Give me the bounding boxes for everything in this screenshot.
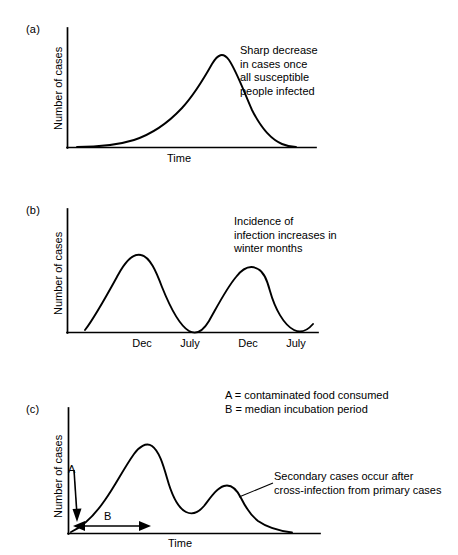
x-tick-label-july-2: July — [276, 337, 316, 349]
panel-label-b: (b) — [26, 204, 40, 216]
x-tick-label-dec-1: Dec — [122, 337, 162, 349]
legend-line-b: B = median incubation period — [225, 403, 368, 417]
y-axis-title-b: Number of cases — [52, 232, 64, 315]
panel-a: (a) Number of cases Time Sharp decrease … — [0, 0, 458, 185]
panel-a-plot — [0, 0, 458, 185]
panel-label-c: (c) — [26, 403, 39, 415]
panel-b: (b) Number of cases Dec July Dec July In… — [0, 185, 458, 370]
epidemic-curve-b — [85, 255, 313, 333]
x-axis-title-c: Time — [168, 537, 192, 549]
x-tick-label-july-1: July — [170, 337, 210, 349]
legend-line-a: A = contaminated food consumed — [225, 389, 389, 403]
annotation-b: Incidence of infection increases in wint… — [234, 215, 337, 256]
marker-a-arrow-shaft — [74, 470, 77, 515]
x-tick-label-dec-2: Dec — [228, 337, 268, 349]
panel-c: (c) Number of cases Time A B A = contami… — [0, 370, 458, 555]
marker-label-b: B — [104, 510, 111, 522]
y-axis-title-c: Number of cases — [52, 435, 64, 518]
annotation-c: Secondary cases occur after cross-infect… — [274, 470, 442, 497]
annotation-a: Sharp decrease in cases once all suscept… — [240, 44, 318, 98]
marker-b-arrow-head-right — [139, 521, 151, 531]
x-axis-title-a: Time — [167, 152, 191, 164]
marker-a-arrow-head — [73, 509, 82, 523]
annotation-c-leader-line — [239, 483, 273, 497]
y-axis-title-a: Number of cases — [52, 47, 64, 130]
epidemic-curves-figure: (a) Number of cases Time Sharp decrease … — [0, 0, 458, 555]
panel-label-a: (a) — [26, 23, 40, 35]
marker-label-a: A — [68, 463, 75, 475]
